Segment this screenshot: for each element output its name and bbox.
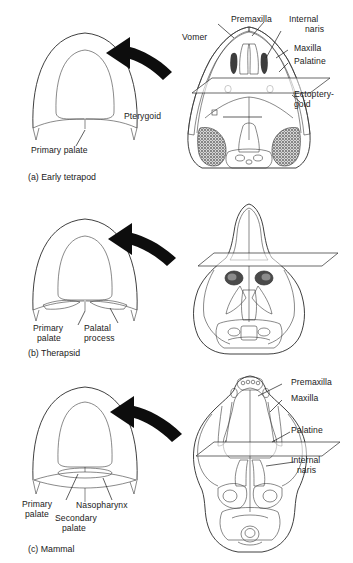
leader-lines-a: [218, 22, 300, 117]
label-internal-naris-c-2: naris: [297, 466, 316, 476]
label-pterygoid: Pterygoid: [124, 112, 161, 122]
skull-therapsid: [194, 204, 339, 354]
label-premaxilla-c: Premaxilla: [291, 378, 332, 388]
label-palatine: Palatine: [294, 57, 326, 67]
cross-section-mammal: [33, 387, 137, 502]
caption-panel-b: (b) Therapsid: [28, 348, 80, 358]
label-primary-palate-c-2: palate: [25, 510, 49, 520]
label-premaxilla: Premaxilla: [231, 15, 272, 25]
panel-therapsid: Primary palate Palatal process (b) Thera…: [0, 190, 353, 362]
label-palatine-c: Palatine: [291, 426, 323, 436]
arrow-c: [110, 396, 182, 442]
label-primary-palate-a: Primary palate: [31, 146, 88, 156]
panel-early-tetrapod: Vomer Premaxilla Internal naris Maxilla …: [0, 0, 353, 190]
caption-panel-c: (c) Mammal: [28, 544, 74, 554]
label-nasopharynx: Nasopharynx: [76, 501, 128, 511]
caption-panel-a: (a) Early tetrapod: [28, 172, 96, 182]
arrow-a: [106, 37, 172, 80]
label-secondary-palate-2: palate: [62, 524, 86, 534]
label-maxilla-c: Maxilla: [291, 394, 318, 404]
label-maxilla: Maxilla: [294, 44, 321, 54]
label-internal-naris-2: naris: [305, 25, 324, 35]
label-primary-palate-b-2: palate: [37, 334, 61, 344]
label-vomer: Vomer: [182, 33, 207, 43]
arrow-b: [108, 223, 176, 266]
panel-mammal: Premaxilla Maxilla Palatine Internal nar…: [0, 362, 353, 563]
label-palatal-process-2: process: [84, 334, 115, 344]
label-ectopterygoid-2: goid: [294, 100, 311, 110]
